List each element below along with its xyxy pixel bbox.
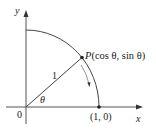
y-axis-label: y: [15, 6, 19, 16]
y-axis-arrow-icon: [24, 10, 29, 17]
point-p-coords: (cos θ, sin θ): [91, 50, 145, 61]
origin-label: 0: [17, 110, 22, 120]
point-p-label: P(cos θ, sin θ): [85, 51, 145, 62]
angle-theta-label: θ: [40, 95, 45, 105]
radius-label: 1: [52, 71, 57, 81]
point-1-0-label: (1, 0): [90, 112, 112, 122]
point-1-0-dot: [97, 105, 101, 109]
unit-circle-diagram: [0, 0, 156, 137]
radius-line: [26, 58, 82, 108]
direction-arrow-curve: [81, 65, 89, 84]
x-axis-arrow-icon: [136, 105, 143, 110]
direction-arrowhead-icon: [87, 82, 90, 87]
x-axis-label: x: [136, 114, 140, 124]
unit-circle-arc: [26, 30, 99, 107]
point-p-dot: [80, 56, 84, 60]
